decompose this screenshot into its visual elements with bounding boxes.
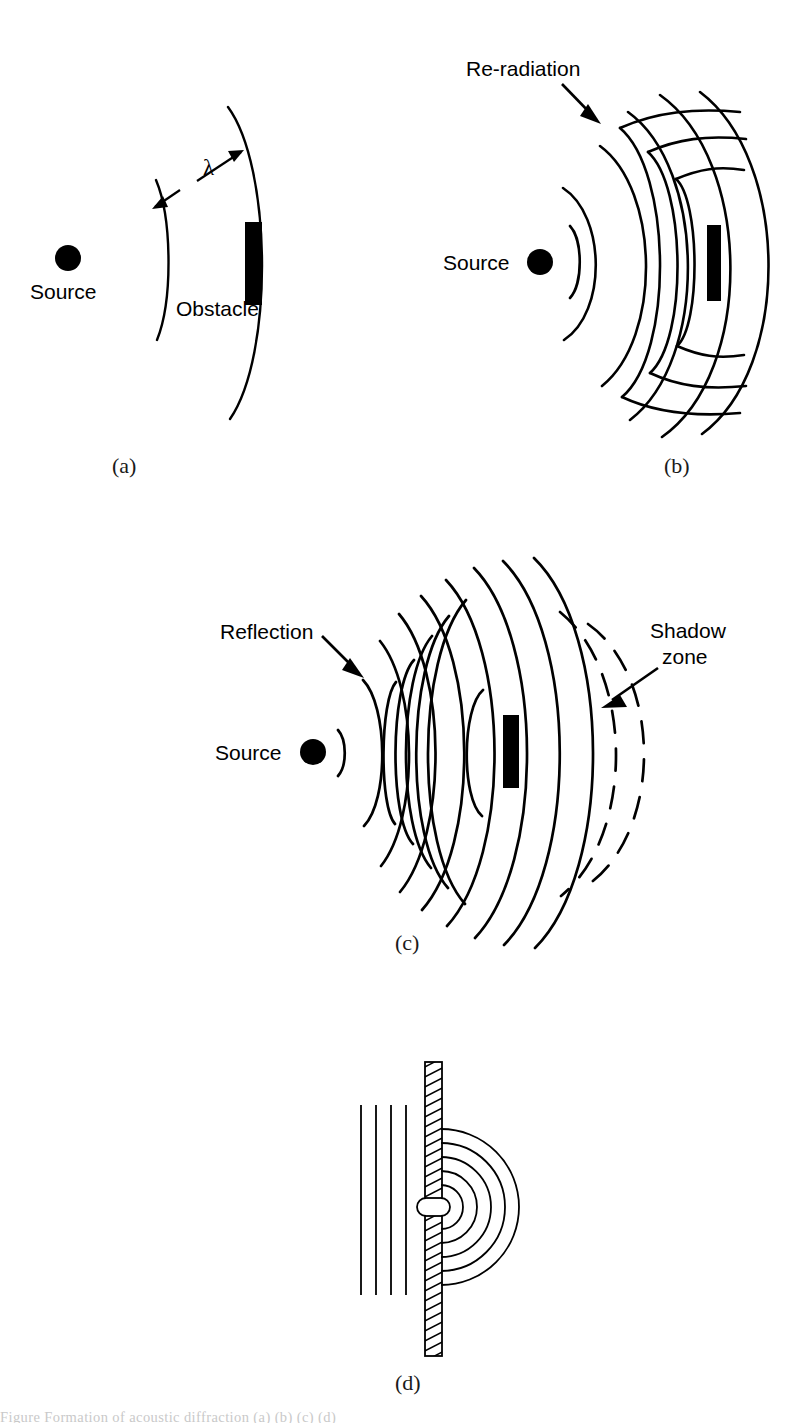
barrier-lower (415, 1207, 452, 1366)
diffracted-arc-1 (441, 1198, 450, 1216)
diffracted-arc-3 (441, 1171, 477, 1243)
acoustic-diffraction-figure: Source Obstacle λ (a) (0, 0, 810, 1423)
plane-wave-lines-d (361, 1105, 406, 1295)
aperture-bulge-d (417, 1198, 426, 1216)
diffracted-arc-2 (441, 1185, 463, 1229)
panel-d-graphics (0, 0, 810, 1423)
diffracted-arc-6 (441, 1129, 519, 1285)
panel-sublabel-d: (d) (395, 1370, 421, 1396)
bottom-caption-fragment: Figure Formation of acoustic diffraction… (0, 1409, 810, 1423)
diffracted-wavefronts-d (441, 1129, 519, 1285)
barrier-upper (415, 1053, 452, 1212)
